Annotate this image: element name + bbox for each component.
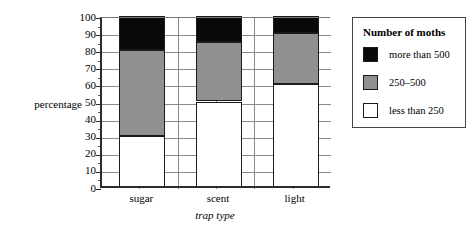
y-tick-60: 60: [58, 80, 96, 91]
legend-label: more than 500: [389, 49, 450, 61]
axis-tick: [96, 69, 101, 70]
axis-tick: [96, 35, 101, 36]
axis-tick-minor: [98, 78, 101, 79]
axis-tick-minor: [98, 61, 101, 62]
y-tick-10: 10: [58, 165, 96, 176]
axis-tick: [96, 155, 101, 156]
legend-label: less than 250: [389, 105, 444, 117]
x-axis-label: trap type: [100, 209, 330, 221]
axis-tick-minor: [98, 129, 101, 130]
y-tick-30: 30: [58, 131, 96, 142]
bar-segment: [119, 16, 165, 50]
axis-tick-minor: [98, 95, 101, 96]
legend-swatch-white: [363, 103, 378, 118]
axis-tick-minor: [98, 112, 101, 113]
bar-segment: [119, 50, 165, 136]
legend-label: 250–500: [389, 77, 426, 89]
plot-area: [100, 17, 330, 188]
y-axis-tick-labels: 1009080706050403020100: [58, 0, 96, 237]
axis-tick-minor: [98, 180, 101, 181]
axis-tick-minor: [98, 27, 101, 28]
bar-light: [273, 16, 319, 187]
y-tick-20: 20: [58, 148, 96, 159]
legend-item: less than 250: [363, 103, 463, 122]
axis-tick: [96, 172, 101, 173]
gridline-vertical: [254, 18, 255, 189]
legend: Number of moths more than 500250–500less…: [352, 17, 466, 128]
axis-tick-minor: [98, 44, 101, 45]
y-tick-90: 90: [58, 29, 96, 40]
y-tick-0: 0: [58, 183, 96, 194]
bar-scent: [196, 16, 242, 187]
legend-item: more than 500: [363, 47, 463, 66]
axis-tick: [96, 121, 101, 122]
y-tick-100: 100: [58, 12, 96, 23]
y-tick-80: 80: [58, 46, 96, 57]
axis-tick: [96, 189, 101, 190]
bar-segment: [196, 42, 242, 102]
legend-item: 250–500: [363, 75, 463, 94]
bar-segment: [119, 136, 165, 187]
bar-sugar: [119, 16, 165, 187]
axis-tick: [96, 138, 101, 139]
y-tick-50: 50: [58, 97, 96, 108]
chart-page: percentage 1009080706050403020100 sugars…: [0, 0, 473, 237]
x-tick-light: light: [250, 192, 340, 204]
bar-segment: [273, 33, 319, 84]
axis-tick: [96, 104, 101, 105]
bar-segment: [196, 102, 242, 188]
axis-tick-minor: [98, 146, 101, 147]
axis-tick: [96, 18, 101, 19]
axis-tick-minor: [98, 163, 101, 164]
axis-tick: [96, 52, 101, 53]
bar-segment: [196, 16, 242, 42]
y-tick-40: 40: [58, 114, 96, 125]
legend-swatch-gray: [363, 75, 378, 90]
legend-swatch-black: [363, 47, 378, 62]
y-tick-70: 70: [58, 63, 96, 74]
axis-tick: [96, 86, 101, 87]
legend-title: Number of moths: [363, 26, 445, 38]
bar-segment: [273, 16, 319, 33]
gridline-vertical: [178, 18, 179, 189]
bar-segment: [273, 84, 319, 187]
